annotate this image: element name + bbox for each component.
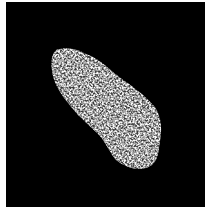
microscopy-image: [6, 2, 205, 207]
nucleus-blob: [6, 2, 205, 207]
